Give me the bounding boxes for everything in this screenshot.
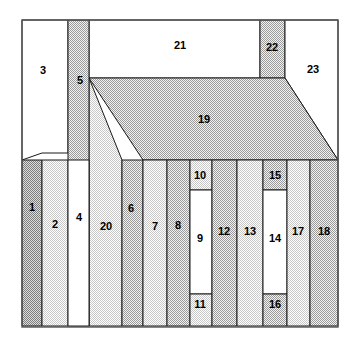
region-4[interactable]: [68, 160, 89, 326]
region-17[interactable]: [287, 160, 310, 326]
region-label-5: 5: [77, 74, 83, 86]
region-group: [22, 20, 338, 326]
region-label-2: 2: [52, 218, 58, 230]
region-3[interactable]: [22, 20, 68, 160]
region-label-6: 6: [128, 202, 134, 214]
region-6[interactable]: [122, 160, 143, 326]
region-label-23: 23: [307, 63, 319, 75]
region-label-18: 18: [318, 225, 330, 237]
region-label-17: 17: [292, 225, 304, 237]
region-label-13: 13: [244, 225, 256, 237]
region-label-11: 11: [194, 298, 206, 310]
diagram-root: 1 2 3 4 5 6 7 8 9 10 11 12 13 14 15 16 1…: [0, 0, 353, 344]
region-12[interactable]: [212, 160, 237, 326]
region-label-12: 12: [218, 225, 230, 237]
region-8[interactable]: [167, 160, 190, 326]
region-label-1: 1: [29, 201, 35, 213]
region-label-21: 21: [174, 39, 186, 51]
region-13[interactable]: [237, 160, 263, 326]
region-label-9: 9: [197, 232, 203, 244]
region-label-20: 20: [100, 220, 112, 232]
region-7[interactable]: [143, 160, 167, 326]
region-label-8: 8: [175, 219, 181, 231]
region-18[interactable]: [310, 160, 338, 326]
region-label-19: 19: [198, 113, 210, 125]
region-label-4: 4: [76, 211, 83, 223]
polygon-map-svg: 1 2 3 4 5 6 7 8 9 10 11 12 13 14 15 16 1…: [0, 0, 353, 344]
region-label-10: 10: [194, 169, 206, 181]
region-label-3: 3: [40, 64, 46, 76]
region-label-14: 14: [269, 232, 282, 244]
region-label-15: 15: [269, 169, 281, 181]
region-label-22: 22: [266, 41, 278, 53]
region-label-7: 7: [152, 220, 158, 232]
region-1[interactable]: [22, 160, 42, 326]
region-label-16: 16: [269, 298, 281, 310]
region-2[interactable]: [42, 160, 68, 326]
